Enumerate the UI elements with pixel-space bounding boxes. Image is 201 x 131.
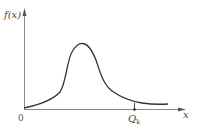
qk-label: Qk	[128, 113, 140, 126]
qk-point	[133, 108, 136, 111]
origin-label: 0	[18, 113, 24, 123]
density-diagram: f(x) x 0 Qk	[0, 0, 201, 131]
density-curve	[24, 43, 168, 108]
qk-label-sub: k	[136, 118, 140, 126]
y-axis-arrow-icon	[23, 8, 27, 16]
y-axis-label: f(x)	[3, 9, 21, 20]
qk-label-main: Q	[128, 113, 136, 124]
x-axis-label: x	[183, 109, 189, 120]
